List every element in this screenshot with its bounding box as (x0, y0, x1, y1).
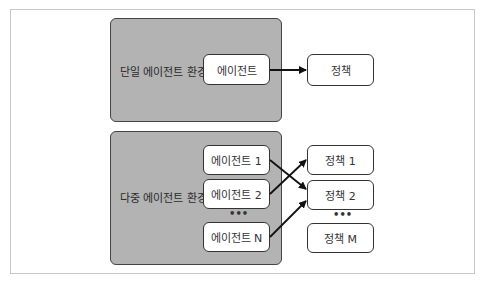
arrow-agentn-to-policy2 (270, 201, 306, 237)
connection-arrows (0, 0, 484, 286)
